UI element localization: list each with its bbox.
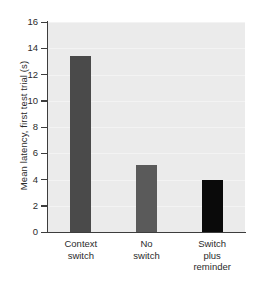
y-tick-mark xyxy=(41,22,47,23)
bar xyxy=(136,165,157,232)
gridline xyxy=(48,22,245,23)
y-tick-label: 0 xyxy=(0,227,38,237)
y-tick-label: 10 xyxy=(0,96,38,106)
y-tick-label: 8 xyxy=(0,122,38,132)
y-tick-label: 12 xyxy=(0,70,38,80)
category-label-line: Switch xyxy=(170,238,254,250)
y-tick-label: 6 xyxy=(0,148,38,158)
y-tick-mark xyxy=(41,74,47,75)
y-tick-label: 16 xyxy=(0,17,38,27)
bar-chart-figure: Mean latency, first test trial (s) 02468… xyxy=(0,0,257,284)
y-tick-mark xyxy=(41,127,47,128)
y-tick-label: 4 xyxy=(0,175,38,185)
category-label-line: plus xyxy=(170,250,254,262)
y-tick-label: 14 xyxy=(0,43,38,53)
y-tick-mark xyxy=(41,205,47,206)
x-axis-line xyxy=(47,232,246,233)
y-tick-mark xyxy=(41,153,47,154)
y-tick-mark xyxy=(41,100,47,101)
category-label: Switchplusreminder xyxy=(170,238,254,273)
y-axis-line xyxy=(47,21,48,233)
bar xyxy=(202,180,223,233)
y-tick-mark xyxy=(41,232,47,233)
category-label-line: reminder xyxy=(170,261,254,273)
y-tick-label: 2 xyxy=(0,201,38,211)
y-tick-mark xyxy=(41,179,47,180)
y-tick-mark xyxy=(41,48,47,49)
bar xyxy=(70,56,91,232)
gridline xyxy=(48,48,245,49)
